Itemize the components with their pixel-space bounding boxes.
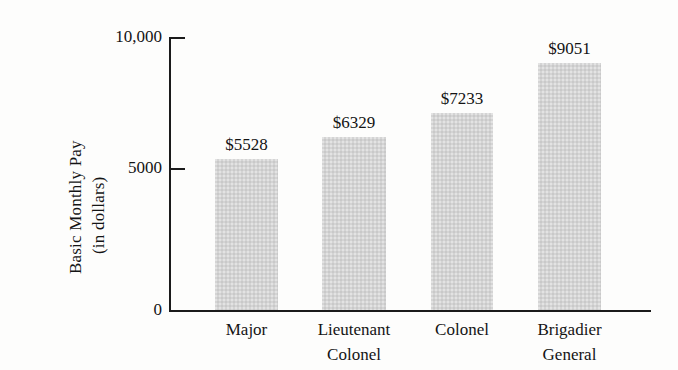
bars-layer: $5528 Major $6329 Lieutenant Colonel $72…	[0, 0, 678, 370]
bar-major[interactable]	[215, 159, 278, 310]
x-axis-label-brigadier-general: Brigadier General	[509, 320, 630, 365]
x-axis-label-lieutenant-colonel-line2: Colonel	[293, 345, 415, 365]
bar-colonel[interactable]	[431, 113, 493, 310]
x-axis-label-colonel: Colonel	[411, 320, 513, 340]
x-axis-label-brigadier-general-line2: General	[509, 345, 630, 365]
bar-chart: Basic Monthly Pay (in dollars) 10,000 50…	[0, 0, 678, 370]
x-axis-label-lieutenant-colonel-line1: Lieutenant	[318, 320, 391, 339]
bar-brigadier-general[interactable]	[538, 63, 601, 310]
x-axis-label-lieutenant-colonel: Lieutenant Colonel	[293, 320, 415, 365]
x-axis-label-major-line1: Major	[226, 320, 268, 339]
bar-value-major: $5528	[196, 135, 297, 155]
x-axis-label-colonel-line1: Colonel	[435, 320, 489, 339]
bar-value-lieutenant-colonel: $6329	[303, 113, 405, 133]
x-axis-label-major: Major	[196, 320, 297, 340]
x-axis-label-brigadier-general-line1: Brigadier	[537, 320, 601, 339]
bar-value-colonel: $7233	[411, 89, 513, 109]
bar-value-brigadier-general: $9051	[519, 39, 620, 59]
bar-lieutenant-colonel[interactable]	[322, 137, 386, 310]
